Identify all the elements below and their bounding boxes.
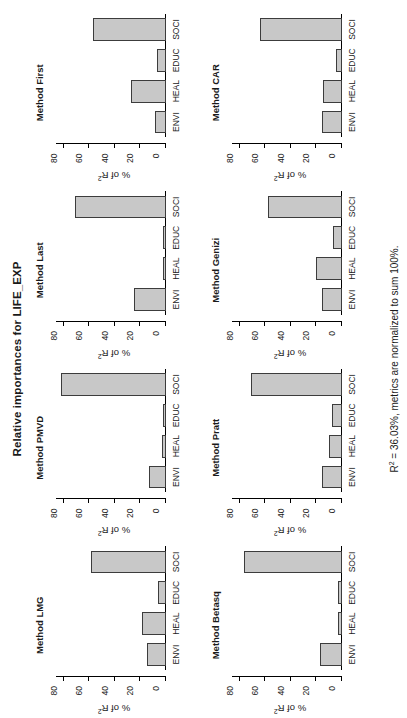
bar-slot-pratt-heal: HEAL <box>232 431 342 462</box>
bar-label-pratt-envi: ENVI <box>347 462 357 493</box>
bar-car-heal <box>323 80 342 103</box>
bar-first-educ <box>157 49 166 72</box>
y-tick-pmvd-4 <box>63 500 64 504</box>
y-tick-car-1 <box>315 145 316 149</box>
bar-first-heal <box>131 80 166 103</box>
y-tick-label-betasq-3: 60 <box>250 686 260 708</box>
bar-group-car: ENVIHEALEDUCSOCI <box>232 14 342 138</box>
y-tick-label-first-3: 60 <box>74 154 84 176</box>
page-title: Relative importances for LIFE_EXP <box>11 0 23 718</box>
rotated-figure-stage: Relative importances for LIFE_EXP Method… <box>0 0 407 718</box>
bar-slot-car-envi: ENVI <box>232 107 342 138</box>
bar-label-last-soci: SOCI <box>171 192 181 223</box>
y-tick-label-genizi-0: 0 <box>327 331 337 353</box>
panel-title-lmg: Method LMG <box>34 537 45 715</box>
plot-area-pratt: 020406080ENVIHEALEDUCSOCI <box>232 369 342 493</box>
bar-label-betasq-soci: SOCI <box>347 547 357 578</box>
panel-first: Method First% of R2020406080ENVIHEALEDUC… <box>26 4 202 182</box>
y-axis-title-superscript: 2 <box>98 175 102 182</box>
y-tick-label-pratt-2: 40 <box>276 509 286 531</box>
bar-slot-genizi-educ: EDUC <box>232 222 342 253</box>
y-tick-label-betasq-4: 80 <box>225 686 235 708</box>
bar-group-pratt: ENVIHEALEDUCSOCI <box>232 369 342 493</box>
bar-slot-betasq-soci: SOCI <box>232 547 342 578</box>
bar-label-betasq-heal: HEAL <box>347 608 357 639</box>
bar-group-pmvd: ENVIHEALEDUCSOCI <box>56 369 166 493</box>
bar-last-soci <box>75 196 166 219</box>
y-tick-pmvd-0 <box>165 500 166 504</box>
panel-genizi: Method Genizi% of R2020406080ENVIHEALEDU… <box>202 182 378 360</box>
bar-slot-car-soci: SOCI <box>232 14 342 45</box>
y-tick-car-4 <box>239 145 240 149</box>
plot-area-first: 020406080ENVIHEALEDUCSOCI <box>56 14 166 138</box>
y-tick-label-first-4: 80 <box>49 154 59 176</box>
plot-area-genizi: 020406080ENVIHEALEDUCSOCI <box>232 192 342 316</box>
footnote-superscript: 2 <box>388 461 395 465</box>
y-tick-lmg-1 <box>139 677 140 681</box>
bar-slot-pmvd-educ: EDUC <box>56 400 166 431</box>
panel-pratt: Method Pratt% of R2020406080ENVIHEALEDUC… <box>202 359 378 537</box>
y-tick-lmg-2 <box>114 677 115 681</box>
y-tick-label-last-0: 0 <box>151 331 161 353</box>
y-tick-betasq-2 <box>290 677 291 681</box>
y-tick-last-3 <box>88 322 89 326</box>
bar-slot-last-educ: EDUC <box>56 222 166 253</box>
y-tick-label-lmg-0: 0 <box>151 686 161 708</box>
y-tick-label-pmvd-0: 0 <box>151 509 161 531</box>
bar-label-first-heal: HEAL <box>171 76 181 107</box>
plot-area-lmg: 020406080ENVIHEALEDUCSOCI <box>56 547 166 671</box>
footnote-r-symbol: R <box>389 465 400 472</box>
y-axis-title-superscript: 2 <box>274 530 278 537</box>
y-tick-genizi-2 <box>290 322 291 326</box>
plot-area-pmvd: 020406080ENVIHEALEDUCSOCI <box>56 369 166 493</box>
y-tick-pratt-2 <box>290 500 291 504</box>
bar-label-last-educ: EDUC <box>171 222 181 253</box>
bar-label-pratt-heal: HEAL <box>347 431 357 462</box>
y-tick-label-last-4: 80 <box>49 331 59 353</box>
bar-genizi-envi <box>322 288 342 311</box>
y-tick-pmvd-2 <box>114 500 115 504</box>
bar-slot-first-soci: SOCI <box>56 14 166 45</box>
bar-group-first: ENVIHEALEDUCSOCI <box>56 14 166 138</box>
y-tick-label-pratt-1: 20 <box>301 509 311 531</box>
bar-slot-pratt-envi: ENVI <box>232 462 342 493</box>
y-tick-label-last-2: 40 <box>100 331 110 353</box>
panel-title-genizi: Method Genizi <box>210 182 221 360</box>
bar-pratt-educ <box>332 404 342 427</box>
y-axis-line-last <box>56 321 166 322</box>
bar-first-soci <box>93 18 166 41</box>
y-tick-label-car-3: 60 <box>250 154 260 176</box>
bar-genizi-heal <box>316 257 342 280</box>
y-tick-label-genizi-4: 80 <box>225 331 235 353</box>
y-tick-pratt-1 <box>315 500 316 504</box>
y-tick-label-betasq-0: 0 <box>327 686 337 708</box>
bar-label-car-envi: ENVI <box>347 107 357 138</box>
y-tick-first-3 <box>88 145 89 149</box>
y-tick-first-0 <box>165 145 166 149</box>
bar-label-genizi-educ: EDUC <box>347 222 357 253</box>
bar-label-genizi-envi: ENVI <box>347 284 357 315</box>
relative-importance-figure: Relative importances for LIFE_EXP Method… <box>0 0 407 718</box>
bar-slot-betasq-educ: EDUC <box>232 577 342 608</box>
bar-slot-betasq-heal: HEAL <box>232 608 342 639</box>
y-tick-betasq-3 <box>264 677 265 681</box>
bar-label-genizi-soci: SOCI <box>347 192 357 223</box>
y-tick-betasq-1 <box>315 677 316 681</box>
bar-genizi-educ <box>333 226 342 249</box>
bar-slot-car-educ: EDUC <box>232 45 342 76</box>
y-tick-first-4 <box>63 145 64 149</box>
y-tick-label-lmg-1: 20 <box>125 686 135 708</box>
bar-label-pratt-soci: SOCI <box>347 369 357 400</box>
y-axis-title-superscript: 2 <box>274 353 278 360</box>
panel-title-pratt: Method Pratt <box>210 359 221 537</box>
bar-label-lmg-heal: HEAL <box>171 608 181 639</box>
y-tick-car-2 <box>290 145 291 149</box>
y-tick-betasq-4 <box>239 677 240 681</box>
bar-slot-first-heal: HEAL <box>56 76 166 107</box>
y-tick-lmg-4 <box>63 677 64 681</box>
bar-label-first-envi: ENVI <box>171 107 181 138</box>
bar-car-educ <box>336 49 342 72</box>
y-tick-genizi-1 <box>315 322 316 326</box>
y-tick-label-car-2: 40 <box>276 154 286 176</box>
y-tick-label-genizi-1: 20 <box>301 331 311 353</box>
